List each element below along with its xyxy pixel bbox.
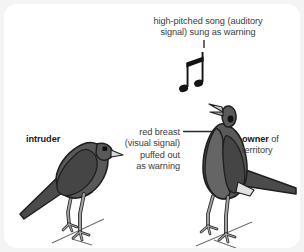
beamed-eighth-notes-icon	[178, 52, 204, 93]
label-owner-of-territory: owner of territory	[242, 134, 302, 157]
label-red-breast: red breast (visual signal) puffed out as…	[96, 127, 180, 172]
owner-beak-open	[209, 104, 223, 116]
owner-leg-far	[201, 196, 217, 234]
label-high-pitched-song: high-pitched song (auditory signal) sung…	[130, 16, 286, 39]
figure-root: high-pitched song (auditory signal) sung…	[0, 0, 304, 252]
bird-singing-icon	[196, 104, 296, 248]
label-owner-bold: owner	[242, 134, 269, 144]
bird-leg-near	[73, 194, 89, 240]
label-intruder: intruder	[26, 134, 96, 145]
owner-eye	[228, 116, 234, 123]
